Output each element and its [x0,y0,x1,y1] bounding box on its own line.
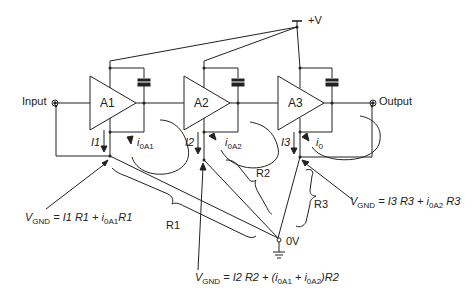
brace-R3 [296,169,316,226]
current-I1: I1 [91,137,100,148]
supply-label: +V [308,15,322,26]
output-label: Output [379,96,412,107]
current-i0A1: i0A1 [137,137,154,151]
current-i0: i0 [316,137,323,151]
resistance-R3: R3 [314,199,328,210]
amp-label-A3: A3 [288,97,303,109]
input-label: Input [22,96,46,107]
current-I2: I2 [185,137,194,148]
equation-vgnd-1: VGND = I1 R1 + i0A1R1 [25,212,132,226]
ground-node [277,238,281,242]
ground-label: 0V [286,236,299,247]
amp-label-A1: A1 [100,97,115,109]
resistance-R1: R1 [166,220,180,231]
resistance-R2: R2 [256,168,270,179]
brace-R1 [112,168,256,238]
current-I3: I3 [281,137,290,148]
current-i0A2: i0A2 [225,137,242,151]
amp-label-A2: A2 [194,97,209,109]
equation-vgnd-3: VGND = I3 R3 + i0A2 R3 [350,196,460,210]
equation-vgnd-2: VGND = I2 R2 + (i0A1 + i0A2)R2 [195,272,339,286]
